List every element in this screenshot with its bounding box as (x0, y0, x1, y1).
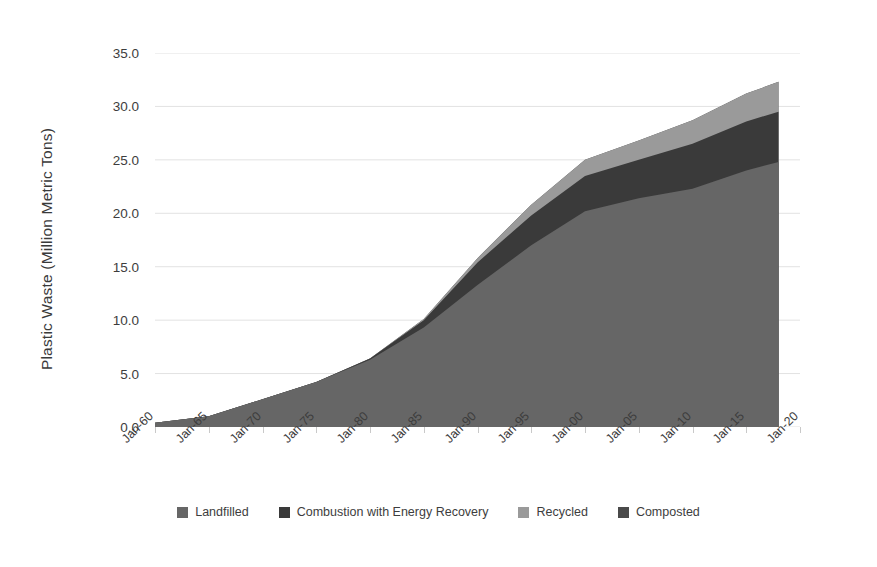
x-tick-label: Jan-95 (495, 409, 532, 446)
x-tick-label: Jan-80 (334, 409, 371, 446)
legend-swatch-icon (518, 507, 529, 518)
x-axis-tick-labels: Jan-60Jan-65Jan-70Jan-75Jan-80Jan-85Jan-… (0, 0, 877, 567)
x-tick-label: Jan-75 (280, 409, 317, 446)
x-tick-mark (316, 427, 317, 433)
x-tick-label: Jan-60 (119, 409, 156, 446)
x-tick-mark (155, 427, 156, 433)
legend-item[interactable]: Composted (618, 505, 700, 519)
x-tick-mark (370, 427, 371, 433)
x-tick-mark (209, 427, 210, 433)
x-tick-mark (424, 427, 425, 433)
x-tick-label: Jan-65 (173, 409, 210, 446)
legend-item[interactable]: Recycled (518, 505, 587, 519)
legend-swatch-icon (279, 507, 290, 518)
x-tick-mark (585, 427, 586, 433)
stacked-area-chart: Plastic Waste (Million Metric Tons) 0.05… (0, 0, 877, 567)
x-tick-mark (800, 427, 801, 433)
legend-item[interactable]: Combustion with Energy Recovery (279, 505, 489, 519)
x-tick-mark (639, 427, 640, 433)
x-tick-mark (693, 427, 694, 433)
legend-label: Composted (636, 505, 700, 519)
x-tick-label: Jan-90 (442, 409, 479, 446)
x-tick-mark (263, 427, 264, 433)
x-tick-label: Jan-00 (549, 409, 586, 446)
x-tick-mark (746, 427, 747, 433)
x-tick-mark (531, 427, 532, 433)
x-tick-label: Jan-15 (710, 409, 747, 446)
x-tick-mark (478, 427, 479, 433)
x-tick-label: Jan-20 (764, 409, 801, 446)
legend-swatch-icon (618, 507, 629, 518)
legend-label: Recycled (536, 505, 587, 519)
legend-label: Combustion with Energy Recovery (297, 505, 489, 519)
legend-item[interactable]: Landfilled (177, 505, 249, 519)
x-tick-label: Jan-85 (388, 409, 425, 446)
x-tick-label: Jan-05 (603, 409, 640, 446)
legend-swatch-icon (177, 507, 188, 518)
chart-legend: LandfilledCombustion with Energy Recover… (0, 505, 877, 519)
x-tick-label: Jan-10 (657, 409, 694, 446)
legend-label: Landfilled (195, 505, 249, 519)
x-tick-label: Jan-70 (227, 409, 264, 446)
